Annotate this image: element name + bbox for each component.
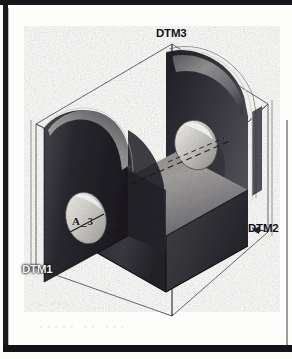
page-margin-bottom bbox=[0, 352, 292, 359]
figure-frame: ·· ···· ····· ·· ··· · ··· bbox=[0, 0, 292, 359]
datum-axis-label-a3: A_3 bbox=[72, 215, 94, 227]
datum-plane-label-dtm2: DTM2 bbox=[248, 222, 279, 234]
page-border-right bbox=[286, 120, 288, 345]
datum-plane-label-dtm1: DTM1 bbox=[22, 263, 53, 275]
page-border-bottom bbox=[3, 345, 292, 352]
page-border-inner-left bbox=[8, 8, 9, 345]
page-border-top bbox=[0, 0, 292, 5]
cad-model-drawing bbox=[0, 0, 292, 359]
datum-plane-label-dtm3: DTM3 bbox=[156, 27, 187, 39]
